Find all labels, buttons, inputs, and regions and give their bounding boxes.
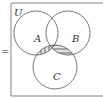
equals-sign: =: [1, 46, 9, 57]
label-c: C: [53, 71, 61, 82]
label-a: A: [33, 33, 41, 44]
label-b: B: [71, 33, 79, 44]
venn-diagram: = U A B C: [0, 0, 103, 98]
circle-c: [33, 45, 77, 89]
circle-b: [46, 11, 90, 55]
label-u: U: [14, 7, 23, 18]
